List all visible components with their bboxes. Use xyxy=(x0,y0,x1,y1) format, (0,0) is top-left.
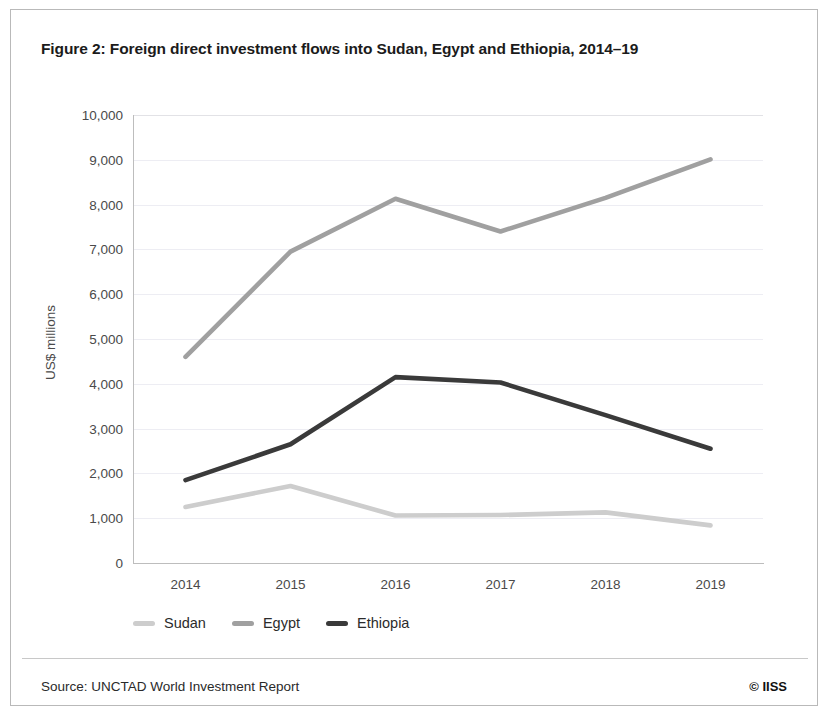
legend-swatch-sudan xyxy=(133,621,155,626)
footer-divider xyxy=(22,658,808,659)
figure-page: Figure 2: Foreign direct investment flow… xyxy=(0,0,828,715)
legend-swatch-egypt xyxy=(232,621,254,626)
legend-label: Egypt xyxy=(263,615,300,631)
figure-title: Figure 2: Foreign direct investment flow… xyxy=(41,40,781,58)
source-note: Source: UNCTAD World Investment Report xyxy=(41,679,299,694)
legend-item-sudan[interactable]: Sudan xyxy=(133,615,206,631)
chart-legend: SudanEgyptEthiopia xyxy=(133,615,409,631)
legend-label: Ethiopia xyxy=(357,615,409,631)
legend-label: Sudan xyxy=(164,615,206,631)
iiss-copyright: © IISS xyxy=(749,679,787,694)
series-line-ethiopia xyxy=(186,377,711,480)
legend-swatch-ethiopia xyxy=(326,621,348,626)
line-chart: US$ millions 01,0002,0003,0004,0005,0006… xyxy=(41,80,801,640)
legend-item-ethiopia[interactable]: Ethiopia xyxy=(326,615,409,631)
series-line-sudan xyxy=(186,486,711,525)
figure-frame: Figure 2: Foreign direct investment flow… xyxy=(10,9,818,706)
series-line-egypt xyxy=(186,159,711,357)
legend-item-egypt[interactable]: Egypt xyxy=(232,615,300,631)
series-lines xyxy=(41,80,801,580)
